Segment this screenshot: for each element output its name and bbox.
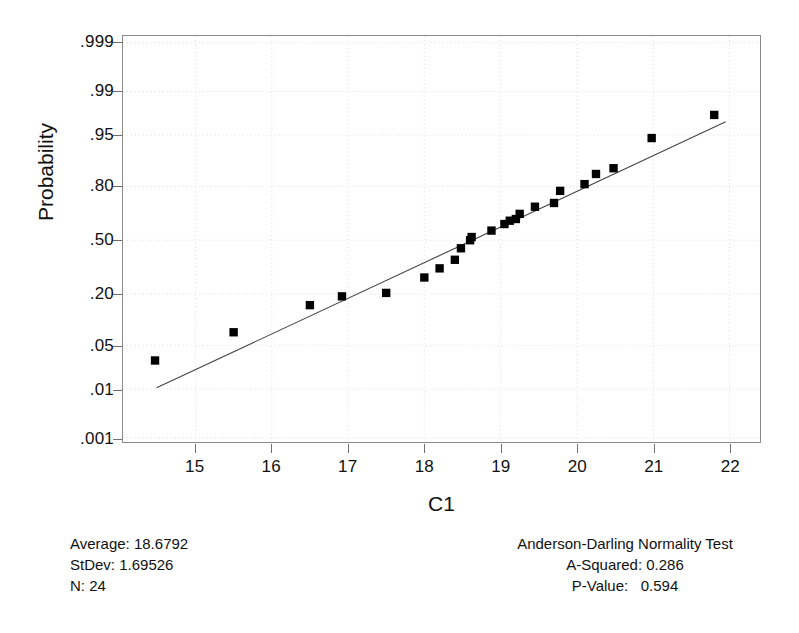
- y-axis-tick-mark: [113, 346, 122, 347]
- y-axis-tick-mark: [113, 439, 122, 440]
- data-point-marker: [592, 170, 600, 178]
- x-axis-tick-labels: 1516171819202122: [122, 457, 761, 483]
- data-point-marker: [382, 289, 390, 297]
- x-axis-tick-mark: [195, 444, 196, 453]
- y-axis-tick-mark: [113, 42, 122, 43]
- x-axis-tick-mark: [271, 444, 272, 453]
- stat-stdev: StDev: 1.69526: [70, 554, 188, 575]
- anderson-darling-test-results: Anderson-Darling Normality Test A-Square…: [480, 533, 770, 596]
- normal-probability-plot-figure: .999.99.95.80.50.20.05.01.001 1516171819…: [0, 0, 799, 633]
- x-axis-tick-label: 15: [185, 457, 204, 477]
- data-point-marker: [151, 356, 159, 364]
- data-point-marker: [457, 244, 465, 252]
- y-axis-tick-mark: [113, 186, 122, 187]
- data-point-marker: [420, 273, 428, 281]
- y-axis-tick-mark: [113, 240, 122, 241]
- data-point-marker: [580, 180, 588, 188]
- x-axis-tick-mark: [424, 444, 425, 453]
- y-axis-tick-label: .01: [90, 380, 114, 400]
- x-axis-tick-label: 22: [721, 457, 740, 477]
- test-title: Anderson-Darling Normality Test: [480, 533, 770, 554]
- y-axis-tick-labels: .999.99.95.80.50.20.05.01.001: [52, 35, 114, 443]
- x-axis-tick-mark: [577, 444, 578, 453]
- y-axis-tick-label: .05: [90, 336, 114, 356]
- data-point-marker: [609, 164, 617, 172]
- y-axis-tick-label: .999: [80, 32, 114, 52]
- y-axis-title: Probability: [34, 92, 58, 252]
- data-point-marker: [306, 301, 314, 309]
- x-axis-tick-marks: [122, 444, 761, 453]
- x-axis-tick-label: 19: [491, 457, 510, 477]
- descriptive-statistics: Average: 18.6792 StDev: 1.69526 N: 24: [70, 533, 188, 596]
- y-axis-tick-mark: [113, 390, 122, 391]
- data-point-marker: [467, 233, 475, 241]
- stat-n: N: 24: [70, 575, 188, 596]
- y-axis-tick-label: .95: [90, 125, 114, 145]
- plot-area: [122, 35, 761, 443]
- y-axis-tick-mark: [113, 135, 122, 136]
- y-axis-tick-mark: [113, 91, 122, 92]
- y-axis-tick-label: .20: [90, 284, 114, 304]
- y-axis-tick-label: .99: [90, 81, 114, 101]
- y-axis-tick-label: .80: [90, 176, 114, 196]
- stat-a-squared: A-Squared: 0.286: [480, 554, 770, 575]
- data-point-marker: [556, 187, 564, 195]
- y-axis-tick-label: .001: [80, 429, 114, 449]
- data-point-marker: [487, 226, 495, 234]
- data-point-marker: [516, 210, 524, 218]
- y-axis-tick-label: .50: [90, 230, 114, 250]
- x-axis-tick-label: 21: [644, 457, 663, 477]
- x-axis-tick-label: 18: [415, 457, 434, 477]
- x-axis-tick-mark: [654, 444, 655, 453]
- y-axis-tick-mark: [113, 294, 122, 295]
- fit-reference-line: [157, 122, 726, 388]
- data-point-marker: [435, 264, 443, 272]
- data-point-marker: [531, 203, 539, 211]
- x-axis-tick-label: 16: [262, 457, 281, 477]
- data-point-marker: [229, 328, 237, 336]
- x-axis-tick-label: 17: [338, 457, 357, 477]
- data-point-marker: [710, 111, 718, 119]
- data-point-marker: [550, 199, 558, 207]
- data-point-marker: [338, 292, 346, 300]
- x-axis-tick-mark: [348, 444, 349, 453]
- y-axis-tick-marks: [113, 35, 122, 443]
- data-point-marker: [451, 256, 459, 264]
- x-axis-title: C1: [122, 492, 761, 516]
- data-layer: [123, 36, 760, 442]
- x-axis-tick-mark: [501, 444, 502, 453]
- x-axis-tick-mark: [730, 444, 731, 453]
- stat-average: Average: 18.6792: [70, 533, 188, 554]
- stat-p-value: P-Value: 0.594: [480, 575, 770, 596]
- x-axis-tick-label: 20: [568, 457, 587, 477]
- data-point-marker: [647, 134, 655, 142]
